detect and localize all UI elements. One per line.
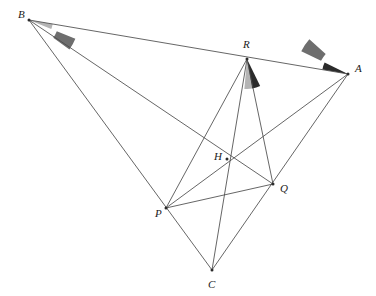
vertex-label-p: P xyxy=(154,207,162,219)
vertex-dot-p xyxy=(165,207,168,210)
angle-marks-group xyxy=(29,20,348,89)
vertex-dot-a xyxy=(347,73,350,76)
segment-R-Q xyxy=(247,59,273,184)
vertex-dot-q xyxy=(272,183,275,186)
segment-B-C xyxy=(29,20,212,270)
segment-B-Q xyxy=(29,20,273,184)
angle-mark-A-inner xyxy=(322,63,348,74)
segment-B-A xyxy=(29,20,348,74)
vertex-label-r: R xyxy=(242,38,250,50)
vertex-dot-h xyxy=(226,158,229,161)
vertex-dot-r xyxy=(246,58,249,61)
vertex-label-c: C xyxy=(208,278,216,290)
segments-group xyxy=(29,20,348,270)
vertex-dot-c xyxy=(211,269,214,272)
figure-canvas: ABCPQRH xyxy=(0,0,376,296)
vertex-label-b: B xyxy=(18,8,25,20)
vertex-dot-b xyxy=(28,19,31,22)
vertex-label-q: Q xyxy=(280,182,288,194)
vertex-label-a: A xyxy=(354,62,362,74)
geometry-figure: ABCPQRH xyxy=(0,0,376,296)
vertex-label-h: H xyxy=(213,150,223,162)
segment-A-C xyxy=(212,74,348,270)
angle-mark-A-outer xyxy=(301,39,325,61)
vertex-dots-group xyxy=(28,19,350,272)
angle-mark-B-outer xyxy=(53,31,75,49)
